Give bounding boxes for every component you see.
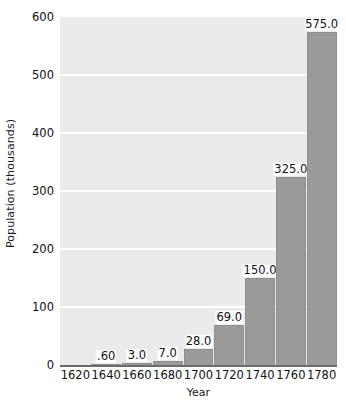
x-axis-title: Year — [60, 386, 337, 399]
y-axis-tick-labels: 0100200300400500600 — [22, 0, 58, 366]
x-axis-line — [60, 365, 337, 367]
bar-value-label: .60 — [96, 350, 116, 363]
bar-value-label: 69.0 — [215, 311, 243, 324]
x-axis-tick-label: 1740 — [245, 368, 274, 382]
x-axis-tick-label: 1640 — [92, 368, 121, 382]
x-axis-tick-label: 1660 — [122, 368, 151, 382]
y-axis-tick-label: 600 — [32, 10, 54, 24]
bar — [184, 349, 214, 365]
population-bar-chart: Population (thousands) 01002003004005006… — [0, 0, 346, 408]
x-axis-tick-labels: 162016401660168017001720174017601780 — [60, 368, 337, 386]
x-axis-tick-label: 1760 — [276, 368, 305, 382]
plot-area: .603.07.028.069.0150.0325.0575.0 — [60, 17, 337, 365]
y-axis-title-text: Population (thousands) — [5, 118, 18, 247]
bar-value-label: 3.0 — [127, 349, 147, 362]
y-axis-tick-label: 300 — [32, 184, 54, 198]
x-axis-tick-label: 1720 — [215, 368, 244, 382]
bar — [245, 278, 275, 365]
x-axis-tick-label: 1620 — [61, 368, 90, 382]
bar-value-label: 575.0 — [304, 18, 339, 31]
bar — [214, 325, 244, 365]
y-axis-title: Population (thousands) — [0, 0, 22, 366]
bar-series: .603.07.028.069.0150.0325.0575.0 — [60, 17, 337, 365]
y-axis-tick-label: 0 — [47, 358, 54, 372]
x-axis-tick-label: 1680 — [153, 368, 182, 382]
y-axis-tick-label: 100 — [32, 300, 54, 314]
bar-value-label: 7.0 — [158, 347, 178, 360]
y-axis-tick-label: 500 — [32, 68, 54, 82]
bar — [276, 177, 306, 366]
bar-value-label: 28.0 — [185, 335, 213, 348]
x-axis-tick-label: 1780 — [307, 368, 336, 382]
y-axis-tick-label: 400 — [32, 126, 54, 140]
bar — [307, 32, 337, 366]
x-axis-tick-label: 1700 — [184, 368, 213, 382]
bar-value-label: 150.0 — [243, 264, 278, 277]
bar-value-label: 325.0 — [273, 163, 308, 176]
y-axis-tick-label: 200 — [32, 242, 54, 256]
